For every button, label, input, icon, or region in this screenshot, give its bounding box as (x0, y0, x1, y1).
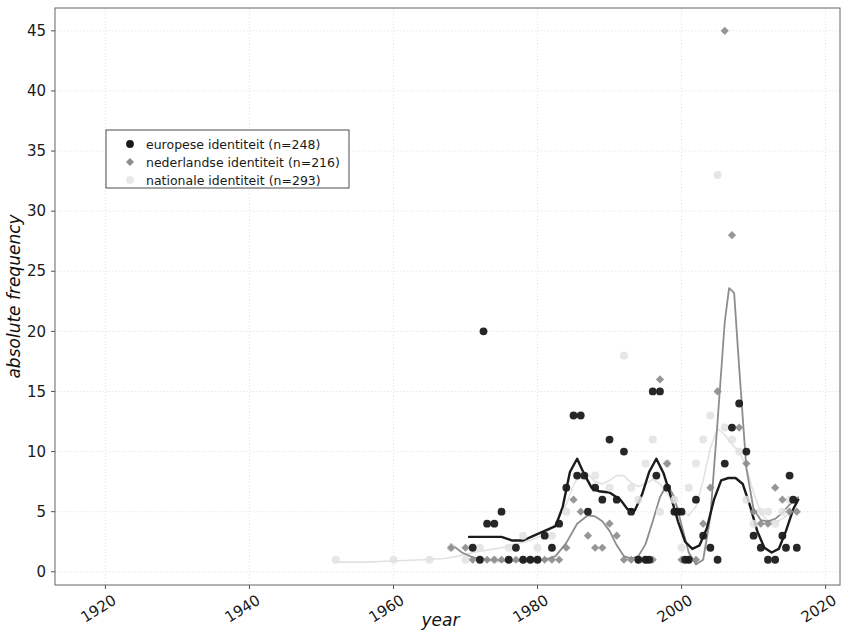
data-point-circle (721, 460, 729, 468)
data-point-circle (678, 508, 686, 516)
data-point-circle (469, 544, 477, 552)
data-point-light (634, 496, 642, 504)
data-point-light (714, 171, 722, 179)
data-point-circle (562, 484, 570, 492)
data-point-circle (656, 388, 664, 396)
data-point-circle (649, 388, 657, 396)
data-point-light (735, 448, 743, 456)
data-point-circle (519, 556, 527, 564)
data-point-circle (577, 412, 585, 420)
data-point-circle (480, 327, 488, 335)
y-tick-label: 25 (27, 262, 46, 280)
data-point-circle (771, 556, 779, 564)
data-point-circle (580, 472, 588, 480)
data-point-light (728, 436, 736, 444)
data-point-circle (541, 532, 549, 540)
data-point-circle (505, 556, 513, 564)
data-point-light (519, 532, 527, 540)
scatter-chart: 0510152025303540451920194019601980200020… (0, 0, 853, 634)
data-point-circle (534, 556, 542, 564)
data-point-circle (620, 448, 628, 456)
data-point-circle (778, 532, 786, 540)
y-tick-label: 0 (36, 563, 46, 581)
data-point-circle (750, 532, 758, 540)
data-point-circle (706, 544, 714, 552)
data-point-light (692, 460, 700, 468)
data-point-circle (512, 544, 520, 552)
data-point-circle (685, 556, 693, 564)
data-point-circle (714, 556, 722, 564)
y-tick-label: 10 (27, 443, 46, 461)
data-point-light (389, 556, 397, 564)
chart-figure: 0510152025303540451920194019601980200020… (0, 0, 853, 634)
y-tick-label: 20 (27, 323, 46, 341)
data-point-circle (782, 544, 790, 552)
y-axis-title: absolute frequency (4, 213, 24, 378)
data-point-circle (584, 508, 592, 516)
legend-item-label: nationale identiteit (n=293) (146, 173, 321, 188)
data-point-light (764, 508, 772, 516)
data-point-light (606, 484, 614, 492)
data-point-circle (663, 484, 671, 492)
data-point-circle (483, 520, 491, 528)
data-point-circle (757, 544, 765, 552)
y-tick-label: 35 (27, 142, 46, 160)
legend-item-label: nederlandse identiteit (n=216) (146, 155, 340, 170)
data-point-light (750, 520, 758, 528)
data-point-circle (498, 508, 506, 516)
data-point-light (548, 532, 556, 540)
data-point-light (505, 544, 513, 552)
data-point-circle (548, 544, 556, 552)
data-point-circle (573, 472, 581, 480)
data-point-circle (634, 556, 642, 564)
data-point-circle (555, 520, 563, 528)
plot-background (55, 8, 840, 585)
data-point-circle (613, 496, 621, 504)
data-point-light (699, 436, 707, 444)
data-point-light (462, 556, 470, 564)
data-point-circle (490, 520, 498, 528)
data-point-circle (789, 496, 797, 504)
data-point-light (534, 544, 542, 552)
data-point-circle (735, 400, 743, 408)
y-tick-label: 40 (27, 82, 46, 100)
data-point-light (620, 351, 628, 359)
y-tick-label: 5 (36, 503, 46, 521)
data-point-circle (598, 496, 606, 504)
y-tick-label: 45 (27, 22, 46, 40)
data-point-circle (742, 448, 750, 456)
legend-item-label: europese identiteit (n=248) (146, 137, 320, 152)
data-point-circle (606, 436, 614, 444)
data-point-light (678, 544, 686, 552)
data-point-circle (645, 556, 653, 564)
data-point-circle (476, 556, 484, 564)
data-point-circle (526, 556, 534, 564)
data-point-light (771, 520, 779, 528)
data-point-light (656, 508, 664, 516)
data-point-light (778, 508, 786, 516)
data-point-light (562, 508, 570, 516)
data-point-circle (652, 472, 660, 480)
data-point-circle (699, 532, 707, 540)
legend-marker-light (126, 176, 134, 184)
data-point-circle (764, 556, 772, 564)
y-tick-label: 15 (27, 383, 46, 401)
data-point-circle (692, 496, 700, 504)
data-point-light (721, 424, 729, 432)
data-point-light (591, 472, 599, 480)
y-tick-label: 30 (27, 202, 46, 220)
data-point-light (476, 544, 484, 552)
chart-legend: europese identiteit (n=248)nederlandse i… (106, 130, 349, 188)
data-point-circle (591, 484, 599, 492)
legend-marker-circle (126, 140, 134, 148)
x-axis-title: year (421, 610, 461, 630)
data-point-light (627, 484, 635, 492)
data-point-light (706, 412, 714, 420)
data-point-light (332, 556, 340, 564)
data-point-circle (570, 412, 578, 420)
data-point-light (649, 436, 657, 444)
data-point-light (426, 556, 434, 564)
data-point-circle (728, 424, 736, 432)
data-point-light (757, 508, 765, 516)
data-point-light (642, 460, 650, 468)
